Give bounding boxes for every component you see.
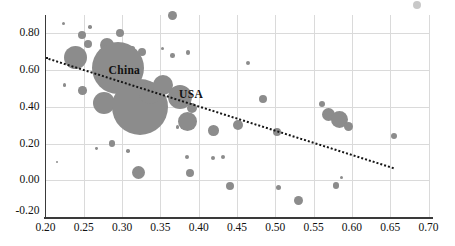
- x-tick-label: 0.45: [227, 221, 247, 233]
- bubble: [208, 125, 219, 136]
- vertical-gridline: [237, 15, 238, 217]
- bubble: [161, 47, 165, 51]
- y-tick-label: 0.00: [4, 173, 40, 185]
- bubble: [246, 61, 250, 65]
- vertical-gridline: [352, 15, 353, 217]
- bubble: [84, 40, 92, 48]
- usa-label: USA: [179, 88, 203, 100]
- horizontal-gridline: [46, 180, 429, 181]
- bubble: [56, 161, 59, 164]
- bubble: [226, 182, 234, 190]
- x-axis-line: [44, 217, 433, 219]
- x-tick-label: 0.25: [74, 221, 94, 233]
- bubble: [333, 182, 340, 189]
- bubble: [186, 169, 194, 177]
- x-tick-label: 0.35: [150, 221, 170, 233]
- vertical-gridline: [429, 15, 430, 217]
- bubble: [340, 176, 343, 179]
- bubble-scatter-chart: ChinaUSA0.200.250.300.350.400.450.500.55…: [0, 0, 455, 246]
- bubble: [185, 155, 189, 159]
- y-tick-label: 0.60: [4, 63, 40, 75]
- bubble: [221, 155, 225, 159]
- x-tick-label: 0.55: [304, 221, 324, 233]
- horizontal-gridline: [46, 33, 429, 34]
- vertical-gridline: [199, 15, 200, 217]
- vertical-gridline: [314, 15, 315, 217]
- scan-artifact-dot: [413, 1, 421, 9]
- bubble: [344, 122, 353, 131]
- bubble: [126, 149, 130, 153]
- y-tick-label: 0.80: [4, 26, 40, 38]
- y-tick-label: 0.40: [4, 100, 40, 112]
- bubble: [178, 112, 197, 131]
- bubble: [78, 86, 87, 95]
- x-tick-label: 0.50: [265, 221, 285, 233]
- bubble: [78, 31, 86, 39]
- bubble: [391, 133, 397, 139]
- bubble: [211, 156, 215, 160]
- x-tick-label: 0.20: [35, 221, 55, 233]
- bubble: [276, 185, 281, 190]
- bubble: [294, 196, 303, 205]
- bubble: [176, 125, 179, 128]
- bubble: [233, 120, 243, 130]
- china-label: China: [109, 64, 141, 76]
- y-tick-label: 0.20: [4, 137, 40, 149]
- bubble: [170, 53, 175, 58]
- bubble: [186, 50, 191, 55]
- horizontal-gridline: [46, 144, 429, 145]
- bubble: [259, 95, 267, 103]
- x-tick-label: 0.40: [189, 221, 209, 233]
- x-tick-label: 0.30: [112, 221, 132, 233]
- vertical-gridline: [390, 15, 391, 217]
- bubble: [109, 140, 116, 147]
- bubble: [168, 11, 177, 20]
- y-tick-label: -0.20: [4, 204, 40, 216]
- bubble: [95, 147, 98, 150]
- bubble: [88, 25, 92, 29]
- x-tick-label: 0.65: [380, 221, 400, 233]
- bubble: [132, 166, 145, 179]
- bubble: [62, 22, 65, 25]
- y-axis-line: [45, 15, 47, 219]
- x-tick-label: 0.60: [342, 221, 362, 233]
- x-tick-label: 0.70: [418, 221, 438, 233]
- bubble: [63, 83, 67, 87]
